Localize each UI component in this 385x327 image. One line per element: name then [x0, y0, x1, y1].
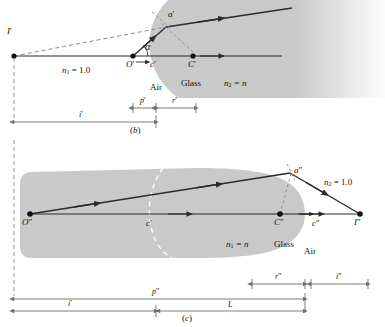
- point-C-prime: [190, 53, 195, 58]
- caption-panel-c: (c): [182, 314, 192, 323]
- label-n2-panel-c: n2 = 1.0: [324, 178, 352, 187]
- point-I-prime: [11, 53, 16, 58]
- caption-panel-b: (b): [130, 126, 141, 135]
- label-n1-panel-c: n1 = n: [226, 240, 249, 249]
- figure-canvas: [0, 0, 385, 327]
- point-C-double-prime: [277, 211, 283, 217]
- label-dim-r-prime: r′: [172, 97, 177, 105]
- point-O-prime: [130, 53, 135, 58]
- label-glass-panel-c: Glass: [274, 240, 294, 249]
- label-n1-panel-b: n1 = 1.0: [62, 66, 90, 75]
- label-dim-i-double-prime: i″: [336, 273, 342, 281]
- label-C-double-prime: C″: [274, 218, 284, 227]
- label-C-prime: C′: [188, 60, 196, 69]
- label-dim-i-prime-c: i′: [68, 300, 72, 308]
- label-n2-panel-b: n2 = n: [224, 79, 247, 88]
- label-c-prime-panel-c: c′: [146, 219, 152, 228]
- label-air-panel-c: Air: [304, 247, 316, 256]
- optics-figure: I′ O′ C′ a′ c′ α n1 = 1.0 Air Glass n2 =…: [0, 0, 385, 327]
- label-c-prime: c′: [150, 60, 156, 69]
- label-dim-i-prime: i′: [79, 111, 83, 119]
- label-c-double-prime: c″: [312, 219, 320, 228]
- label-I-prime: I′: [7, 27, 12, 36]
- label-O-prime: O′: [126, 60, 134, 69]
- refracted-ray-arrow-c: [306, 182, 326, 194]
- label-dim-L: L: [228, 301, 232, 309]
- label-dim-p-prime: p′: [140, 97, 146, 105]
- label-air-panel-b: Air: [150, 83, 162, 92]
- point-O-double-prime: [27, 211, 33, 217]
- point-I-double-prime: [357, 211, 363, 217]
- label-I-double-prime: I″: [354, 218, 361, 227]
- label-a-prime: a′: [168, 10, 174, 19]
- label-O-double-prime: O″: [22, 218, 32, 227]
- label-a-double-prime: a″: [294, 166, 302, 175]
- dimension-i-prime-c: [14, 305, 156, 317]
- label-alpha: α: [145, 42, 150, 52]
- panel-c-glass-body: [20, 168, 305, 258]
- label-glass-panel-b: Glass: [181, 79, 201, 88]
- label-dim-p-double-prime: p″: [152, 288, 159, 296]
- virtual-ray-dashed-b: [14, 27, 166, 56]
- label-dim-r-double-prime: r″: [275, 273, 281, 281]
- dimension-p-double-prime: [14, 293, 305, 313]
